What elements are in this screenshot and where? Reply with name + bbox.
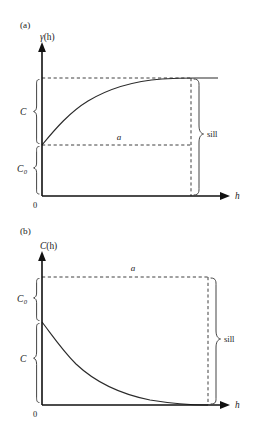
panel-a-y-axis-title: γ(h) bbox=[40, 32, 55, 43]
panel-b-y-axis-title: C(h) bbox=[40, 241, 57, 252]
panel-a-nugget-label-sub: 0 bbox=[24, 168, 28, 175]
panel-a-origin-label: 0 bbox=[33, 201, 37, 210]
figure-text-layer: (a) γ(h) h 0 C C0 a sill (b) C(h) h 0 C0… bbox=[0, 0, 265, 444]
panel-b-origin-label: 0 bbox=[33, 410, 37, 419]
panel-a-range-label: a bbox=[117, 132, 122, 142]
panel-a-x-axis-title: h bbox=[235, 191, 240, 201]
panel-b-tag: (b) bbox=[20, 226, 31, 236]
panel-b-nugget-label-sub: 0 bbox=[24, 298, 28, 305]
panel-b-nugget-label: C0 bbox=[17, 293, 28, 305]
panel-b-y-axis-arg: (h) bbox=[46, 241, 57, 252]
panel-b-range-label: a bbox=[131, 263, 136, 273]
panel-a-partial-sill-label: C bbox=[20, 106, 27, 117]
panel-a-sill-label: sill bbox=[207, 129, 218, 139]
panel-a-tag: (a) bbox=[20, 20, 30, 30]
panel-b-sill-label: sill bbox=[224, 334, 235, 344]
panel-b-x-axis-title: h bbox=[235, 400, 240, 410]
panel-b-partial-sill-label: C bbox=[20, 353, 27, 364]
panel-a-nugget-label: C0 bbox=[17, 163, 28, 175]
panel-a-y-axis-arg: (h) bbox=[44, 32, 55, 43]
figure-root: (a) γ(h) h 0 C C0 a sill (b) C(h) h 0 C0… bbox=[0, 0, 265, 444]
